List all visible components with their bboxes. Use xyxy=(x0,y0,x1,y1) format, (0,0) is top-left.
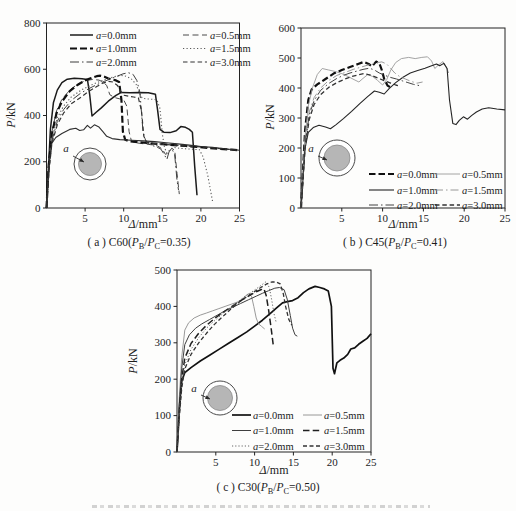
y-tick-label: 200 xyxy=(155,373,172,385)
subfigure-caption: ( a ) C60(PB/PC=0.35) xyxy=(87,236,190,251)
plot-frame xyxy=(301,28,505,208)
legend-label: a=2.0mm xyxy=(253,441,294,452)
legend-label: a=0.0mm xyxy=(253,410,294,421)
y-tick-label: 100 xyxy=(155,409,172,421)
legend-label: a=0.5mm xyxy=(210,30,251,41)
legend: a=0.0mma=1.0mma=2.0mma=0.5mma=1.5mma=3.0… xyxy=(369,169,503,211)
chart-c-canvas: 5101520250100200300400500Δ/mmP/kNaa=0.0m… xyxy=(115,258,405,511)
series-a=3.0mm xyxy=(47,81,240,208)
y-tick-label: 800 xyxy=(24,17,41,29)
legend: a=0.0mma=1.0mma=2.0mma=0.5mma=1.5mma=3.0… xyxy=(232,410,365,452)
y-tick-label: 300 xyxy=(155,336,172,348)
legend-label: a=0.5mm xyxy=(324,410,365,421)
legend-label: a=1.5mm xyxy=(210,43,251,54)
series-a=1.0mm xyxy=(47,76,240,208)
pipe-core xyxy=(208,386,233,411)
legend-label: a=0.5mm xyxy=(462,169,503,180)
chart-a-canvas: 5101520250200400600800Δ/mmP/kNaa=0.0mma=… xyxy=(0,0,258,256)
pipe-core xyxy=(79,153,102,176)
x-tick-label: 5 xyxy=(339,212,345,224)
x-tick-label: 20 xyxy=(459,212,471,224)
chart-c45: 5101520250100200300400500600Δ/mmP/kNaa=0… xyxy=(258,0,516,256)
x-tick-label: 5 xyxy=(213,456,219,468)
x-tick-label: 25 xyxy=(234,212,246,224)
legend-label: a=1.5mm xyxy=(462,185,503,196)
legend-label: a=0.0mm xyxy=(397,169,438,180)
y-axis-label: P/kN xyxy=(4,102,18,129)
y-tick-label: 400 xyxy=(155,300,172,312)
x-tick-label: 15 xyxy=(418,212,430,224)
legend-label: a=0.0mm xyxy=(96,30,137,41)
y-tick-label: 300 xyxy=(279,112,296,124)
y-tick-label: 600 xyxy=(279,22,296,34)
legend-label: a=1.5mm xyxy=(324,425,365,436)
pipe-cross-section-inset: a xyxy=(63,142,106,180)
crack-width-label: a xyxy=(191,382,197,394)
series-a=1.5mm xyxy=(47,75,213,208)
series-curves xyxy=(47,73,240,208)
x-tick-label: 15 xyxy=(157,212,169,224)
crack-width-label: a xyxy=(63,142,69,154)
pipe-cross-section-inset: a xyxy=(191,381,237,415)
subfigure-caption: ( b ) C45(PB/PC=0.41) xyxy=(343,236,447,251)
y-tick-label: 500 xyxy=(279,52,296,64)
crack-width-label: a xyxy=(308,142,314,154)
y-tick-label: 0 xyxy=(166,446,172,458)
series-a=0.5mm xyxy=(177,294,265,452)
x-axis-label: Δ/mm xyxy=(258,463,289,477)
x-tick-label: 25 xyxy=(366,456,378,468)
y-axis-label: P/kN xyxy=(126,348,140,375)
y-tick-label: 0 xyxy=(290,202,296,214)
y-tick-label: 200 xyxy=(279,142,296,154)
x-tick-label: 15 xyxy=(288,456,300,468)
pipe-cross-section-inset: a xyxy=(308,140,355,176)
legend-label: a=2.0mm xyxy=(96,57,137,68)
cut-off-caption-text xyxy=(92,505,430,508)
legend-label: a=1.0mm xyxy=(397,185,438,196)
y-axis-label: P/kN xyxy=(263,104,277,131)
y-tick-label: 0 xyxy=(35,202,41,214)
legend-label: a=3.0mm xyxy=(210,57,251,68)
y-tick-label: 400 xyxy=(24,109,41,121)
x-tick-label: 10 xyxy=(377,212,389,224)
legend-label: a=1.0mm xyxy=(96,43,137,54)
legend: a=0.0mma=1.0mma=2.0mma=0.5mma=1.5mma=3.0… xyxy=(70,30,251,68)
x-axis-label: Δ/mm xyxy=(127,217,158,231)
y-tick-label: 600 xyxy=(24,63,41,75)
pipe-core xyxy=(324,145,350,171)
legend-label: a=3.0mm xyxy=(324,441,365,452)
series-a=3.0mm xyxy=(301,74,401,208)
x-tick-label: 5 xyxy=(82,212,88,224)
chart-c30: 5101520250100200300400500Δ/mmP/kNaa=0.0m… xyxy=(115,258,405,511)
legend-label: a=3.0mm xyxy=(462,200,503,211)
y-tick-label: 400 xyxy=(279,82,296,94)
subfigure-caption: ( c ) C30(PB/PC=0.50) xyxy=(216,481,319,496)
legend-label: a=2.0mm xyxy=(397,200,438,211)
y-tick-label: 100 xyxy=(279,172,296,184)
x-tick-label: 20 xyxy=(327,456,339,468)
x-tick-label: 20 xyxy=(195,212,207,224)
x-axis-label: Δ/mm xyxy=(387,217,418,231)
series-a=2.0mm xyxy=(47,73,179,208)
x-tick-label: 25 xyxy=(500,212,512,224)
y-tick-label: 500 xyxy=(155,264,172,276)
legend-label: a=1.0mm xyxy=(253,425,294,436)
chart-c60: 5101520250200400600800Δ/mmP/kNaa=0.0mma=… xyxy=(0,0,258,256)
chart-b-canvas: 5101520250100200300400500600Δ/mmP/kNaa=0… xyxy=(258,0,516,256)
y-tick-label: 200 xyxy=(24,155,41,167)
